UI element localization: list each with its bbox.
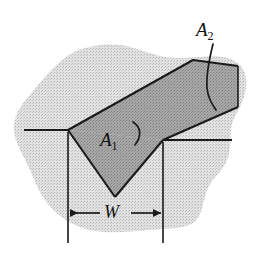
label-w-base: W [104,202,119,222]
label-area-a2: A2 [196,20,214,39]
label-a2-subscript: 2 [208,29,214,43]
label-a1-base: A [100,129,112,150]
label-a1-subscript: 1 [112,139,118,153]
label-width-w: W [104,203,119,221]
figure-container: A2 A1 W [0,0,264,256]
weld-cross-section-drawing [0,0,264,256]
label-area-a1: A1 [100,130,118,149]
label-a2-base: A [196,19,208,40]
